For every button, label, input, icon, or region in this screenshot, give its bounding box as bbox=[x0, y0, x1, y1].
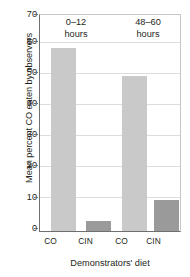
bar-group2-co bbox=[122, 76, 147, 231]
group-header-0-12-hours: 0–12 hours bbox=[46, 17, 106, 40]
x-axis-label: Demonstrators' diet bbox=[39, 258, 181, 269]
x-tick-label-group2-cin: CIN bbox=[141, 236, 166, 246]
bar-group1-cin bbox=[86, 221, 111, 231]
group-header-line1: 48–60 bbox=[118, 17, 178, 29]
y-axis-label: Mean percent CO eaten by observers bbox=[22, 3, 36, 213]
y-tick-mark-20 bbox=[34, 165, 38, 166]
y-tick-mark-30 bbox=[34, 134, 38, 135]
bar-group2-cin bbox=[154, 200, 179, 231]
group-header-line1: 0–12 bbox=[46, 17, 106, 29]
x-tick-label-group1-cin: CIN bbox=[73, 236, 98, 246]
y-tick-mark-50 bbox=[34, 72, 38, 73]
group-header-line2: hours bbox=[46, 29, 106, 41]
bar-group1-co bbox=[51, 48, 76, 231]
plot-area bbox=[39, 14, 181, 232]
y-tick-mark-40 bbox=[34, 103, 38, 104]
y-tick-mark-10 bbox=[34, 197, 38, 198]
x-tick-label-group1-co: CO bbox=[38, 236, 63, 246]
gridline-60 bbox=[40, 42, 180, 43]
y-tick-mark-70 bbox=[34, 14, 38, 15]
y-tick-mark-60 bbox=[34, 41, 38, 42]
group-header-48-60-hours: 48–60 hours bbox=[118, 17, 178, 40]
x-tick-label-group2-co: CO bbox=[109, 236, 134, 246]
y-tick-mark-0 bbox=[34, 228, 38, 229]
group-header-line2: hours bbox=[118, 29, 178, 41]
bar-chart-figure: Mean percent CO eaten by observers 70 60… bbox=[0, 0, 190, 277]
